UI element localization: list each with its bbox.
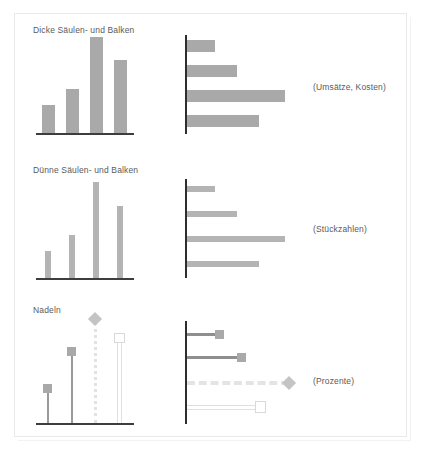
x-axis-thick-columns (36, 133, 134, 135)
horizontal-bar (187, 115, 259, 127)
column-bar (114, 60, 127, 133)
section-note-thick: (Umsätze, Kosten) (313, 82, 386, 92)
square-marker (67, 347, 76, 356)
horizontal-bar (187, 65, 237, 77)
needle-stem (47, 390, 49, 423)
column-bar (90, 37, 103, 133)
section-thick-bars: Dicke Säulen- und Balken (Umsätze, Koste… (0, 0, 421, 153)
horizontal-bar (187, 211, 237, 217)
column-bar (42, 105, 55, 133)
section-needles: Nadeln (Prozente) (0, 293, 421, 452)
chart-needle-bars (170, 293, 320, 452)
square-marker (43, 384, 52, 393)
square-marker (215, 330, 224, 339)
column-bar (69, 235, 75, 278)
column-bar (93, 182, 99, 278)
chart-thin-bars (170, 153, 310, 293)
needle-stem-hollow (187, 405, 259, 410)
column-bar (66, 89, 79, 133)
horizontal-bar (187, 186, 215, 192)
chart-thick-bars (170, 0, 310, 153)
horizontal-bar (187, 90, 285, 102)
needle-stem (187, 356, 241, 359)
diamond-marker (88, 312, 102, 326)
column-bar (45, 251, 51, 278)
chart-thick-columns (0, 0, 170, 153)
chart-figure: Dicke Säulen- und Balken (Umsätze, Koste… (0, 0, 421, 452)
square-hollow-marker (114, 333, 125, 343)
chart-thin-columns (0, 153, 170, 293)
horizontal-bar (187, 40, 215, 52)
horizontal-bar (187, 236, 285, 242)
section-thin-bars: Dünne Säulen- und Balken (Stückzahlen) (0, 153, 421, 293)
horizontal-bar (187, 261, 259, 267)
needle-stem-hollow (117, 340, 122, 423)
column-bar (117, 206, 123, 278)
x-axis-thin-columns (36, 278, 134, 280)
diamond-marker (282, 376, 296, 390)
square-marker (237, 353, 246, 362)
x-axis-needle-columns (36, 423, 134, 425)
square-hollow-marker (255, 401, 266, 413)
needle-stem-dotted (94, 322, 97, 423)
chart-needle-columns (0, 293, 170, 452)
needle-stem (71, 353, 73, 423)
needle-stem-dashed (187, 381, 289, 385)
section-note-thin: (Stückzahlen) (313, 224, 367, 234)
